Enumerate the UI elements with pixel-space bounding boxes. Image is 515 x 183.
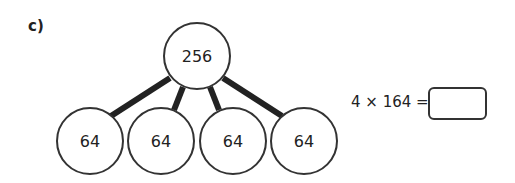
part-node: 64 [57,108,123,174]
part-value: 64 [80,132,100,151]
part-node: 64 [271,108,337,174]
equation-text: 4 × 164 = [351,93,429,111]
connector-line [210,87,219,110]
part-value: 64 [294,132,314,151]
whole-node: 256 [164,23,230,89]
part-node: 64 [200,108,266,174]
answer-box[interactable] [428,87,487,120]
connector-line [174,87,183,110]
whole-value: 256 [182,47,213,66]
part-node: 64 [128,108,194,174]
part-value: 64 [151,132,171,151]
part-value: 64 [223,132,243,151]
